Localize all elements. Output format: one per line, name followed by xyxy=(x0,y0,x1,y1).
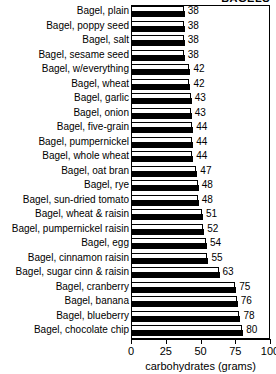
bar xyxy=(131,325,242,337)
bar-row: Bagel, garlic43 xyxy=(0,92,276,107)
x-axis-tick-label: 100 xyxy=(261,345,276,357)
x-axis-tick-label: 75 xyxy=(229,345,241,357)
x-axis-tick xyxy=(166,339,167,344)
bar-value-label: 48 xyxy=(202,194,213,206)
x-axis-tick xyxy=(270,339,271,344)
bar-value-label: 38 xyxy=(188,49,199,61)
bar-row: Bagel, blueberry78 xyxy=(0,310,276,325)
bar-face xyxy=(131,238,206,244)
category-label: Bagel, pumpernickel raisin xyxy=(12,223,129,235)
bar xyxy=(131,195,198,207)
bar-row: Bagel, rye48 xyxy=(0,179,276,194)
x-axis-tick xyxy=(131,339,132,344)
bar-row: Bagel, wheat42 xyxy=(0,78,276,93)
bar-row: Bagel, egg54 xyxy=(0,237,276,252)
category-label: Bagel, banana xyxy=(64,295,129,307)
bar-face xyxy=(131,224,203,230)
bar-face xyxy=(131,79,189,85)
bar-row: Bagel, sun-dried tomato48 xyxy=(0,194,276,209)
bar-row: Bagel, salt38 xyxy=(0,34,276,49)
bar xyxy=(131,311,239,323)
bar-value-label: 38 xyxy=(188,34,199,46)
bar-value-label: 76 xyxy=(241,295,252,307)
bar-value-label: 38 xyxy=(188,5,199,17)
bar xyxy=(131,180,198,192)
category-label: Bagel, sun-dried tomato xyxy=(23,194,129,206)
category-label: Bagel, plain xyxy=(77,5,129,17)
category-label: Bagel, wheat & raisin xyxy=(35,208,129,220)
bar xyxy=(131,79,189,91)
bar-value-label: 78 xyxy=(243,310,254,322)
bar-row: Bagel, sugar cinn & raisin63 xyxy=(0,266,276,281)
bar-row: Bagel, oat bran47 xyxy=(0,165,276,180)
x-axis-tick xyxy=(201,339,202,344)
bar-row: Bagel, cranberry75 xyxy=(0,281,276,296)
category-label: Bagel, blueberry xyxy=(56,310,129,322)
bar-value-label: 75 xyxy=(239,281,250,293)
x-axis-tick-label: 50 xyxy=(194,345,206,357)
category-label: Bagel, cinnamon raisin xyxy=(28,252,129,264)
bar-face xyxy=(131,64,189,70)
bar-face xyxy=(131,93,191,99)
category-label: Bagel, five-grain xyxy=(57,121,129,133)
bar-face xyxy=(131,35,184,41)
category-label: Bagel, chocolate chip xyxy=(34,324,129,336)
x-axis-tick xyxy=(235,339,236,344)
bar-value-label: 38 xyxy=(188,20,199,32)
bar-face xyxy=(131,311,239,317)
category-label: Bagel, wheat xyxy=(71,78,129,90)
bar xyxy=(131,238,206,250)
bar-value-label: 55 xyxy=(211,252,222,264)
bar-row: Bagel, chocolate chip80 xyxy=(0,324,276,339)
bar xyxy=(131,224,203,236)
bar-row: Bagel, sesame seed38 xyxy=(0,49,276,64)
bar-value-label: 47 xyxy=(200,165,211,177)
bar xyxy=(131,166,196,178)
bar-face xyxy=(131,180,198,186)
bar-face xyxy=(131,282,235,288)
category-label: Bagel, sesame seed xyxy=(38,49,129,61)
bar-value-label: 43 xyxy=(195,107,206,119)
bar-value-label: 52 xyxy=(207,223,218,235)
bar-face xyxy=(131,253,207,259)
bar-face xyxy=(131,50,184,56)
category-label: Bagel, whole wheat xyxy=(42,150,129,162)
bar-row: Bagel, banana76 xyxy=(0,295,276,310)
bar xyxy=(131,108,191,120)
bagels-carbohydrate-bar-chart: BAGELS Bagel, plain38Bagel, poppy seed38… xyxy=(0,0,276,374)
category-label: Bagel, egg xyxy=(81,237,129,249)
bar-row: Bagel, plain38 xyxy=(0,5,276,20)
bar xyxy=(131,151,192,163)
bar-row: Bagel, cinnamon raisin55 xyxy=(0,252,276,267)
bar-face xyxy=(131,151,192,157)
bar-value-label: 48 xyxy=(202,179,213,191)
category-label: Bagel, sugar cinn & raisin xyxy=(16,266,129,278)
bar-value-label: 42 xyxy=(193,63,204,75)
x-axis-title: carbohydrates (grams) xyxy=(131,360,270,372)
bar-value-label: 44 xyxy=(196,150,207,162)
bar xyxy=(131,267,219,279)
bar-row: Bagel, pumpernickel44 xyxy=(0,136,276,151)
x-axis-tick-label: 25 xyxy=(160,345,172,357)
bar-row: Bagel, pumpernickel raisin52 xyxy=(0,223,276,238)
x-axis-tick-label: 0 xyxy=(128,345,134,357)
bar-face xyxy=(131,21,184,27)
bar xyxy=(131,137,192,149)
category-label: Bagel, cranberry xyxy=(56,281,129,293)
category-label: Bagel, poppy seed xyxy=(46,20,129,32)
bar-face xyxy=(131,325,242,331)
bar-value-label: 54 xyxy=(210,237,221,249)
bar-face xyxy=(131,137,192,143)
chart-title: BAGELS xyxy=(221,0,270,4)
bar xyxy=(131,6,184,18)
bar xyxy=(131,21,184,33)
category-label: Bagel, pumpernickel xyxy=(38,136,129,148)
bar-face xyxy=(131,296,237,302)
category-label: Bagel, w/everything xyxy=(42,63,129,75)
bar xyxy=(131,93,191,105)
bar-face xyxy=(131,122,192,128)
bar-value-label: 44 xyxy=(196,121,207,133)
bar-row: Bagel, poppy seed38 xyxy=(0,20,276,35)
category-label: Bagel, rye xyxy=(84,179,129,191)
bar xyxy=(131,35,184,47)
